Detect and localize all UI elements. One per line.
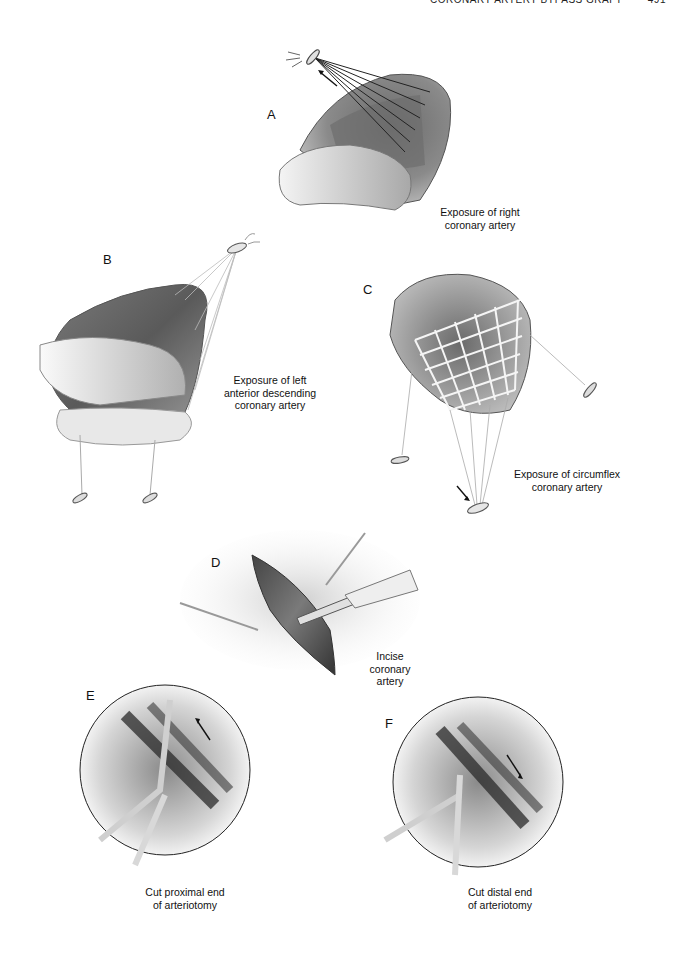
figure-f-caption: Cut distal end of arteriotomy (445, 886, 555, 911)
figure-f: F Cut distal end of arteriotomy (0, 0, 675, 930)
distal-arteriotomy-illustration (0, 0, 675, 930)
figure-letter-f: F (385, 716, 393, 731)
